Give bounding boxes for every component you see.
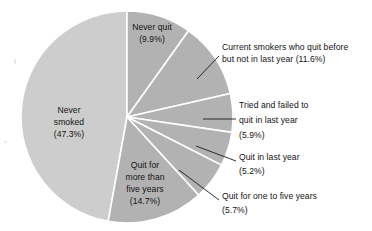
label-quit-more-than-five-line2: more than xyxy=(125,172,164,182)
label-tried-and-failed-value: (5.9%) xyxy=(239,130,265,140)
label-quit-more-than-five-line3: five years xyxy=(126,184,163,194)
label-current-smokers-quit-before: Current smokers who quit before but not … xyxy=(222,42,348,64)
label-current-smokers-line1: Current smokers who quit before xyxy=(222,42,348,52)
label-tried-and-failed: Tried and failed to quit in last year (5… xyxy=(239,100,309,140)
label-never-smoked-value: (47.3%) xyxy=(54,129,85,139)
label-quit-in-last-year-line1: Quit in last year xyxy=(239,152,300,162)
label-never-smoked-line2: smoked xyxy=(54,117,85,127)
label-never-quit-value: (9.9%) xyxy=(139,34,165,44)
scan-speck-lower-left xyxy=(4,141,7,143)
pie-chart-svg: Never smoked (47.3%) Never quit (9.9%) Q… xyxy=(0,0,372,231)
label-never-smoked: Never smoked (47.3%) xyxy=(54,105,85,139)
label-current-smokers-line2: but not in last year (11.6%) xyxy=(222,54,326,64)
label-quit-more-than-five-value: (14.7%) xyxy=(130,196,161,206)
label-quit-more-than-five-line1: Quit for xyxy=(131,160,160,170)
pie-chart-figure: Never smoked (47.3%) Never quit (9.9%) Q… xyxy=(0,0,372,231)
label-never-quit-line1: Never quit xyxy=(132,22,172,32)
label-quit-one-to-five-line1: Quit for one to five years xyxy=(222,191,317,201)
label-quit-one-to-five-value: (5.7%) xyxy=(222,205,248,215)
scan-speck-left xyxy=(14,59,16,64)
label-never-smoked-line1: Never xyxy=(57,105,80,115)
label-quit-in-last-year-value: (5.2%) xyxy=(239,166,265,176)
label-tried-and-failed-line2: quit in last year xyxy=(239,115,298,125)
label-quit-one-to-five-years: Quit for one to five years (5.7%) xyxy=(222,191,317,215)
label-quit-in-last-year: Quit in last year (5.2%) xyxy=(239,152,300,176)
label-tried-and-failed-line1: Tried and failed to xyxy=(239,100,309,110)
